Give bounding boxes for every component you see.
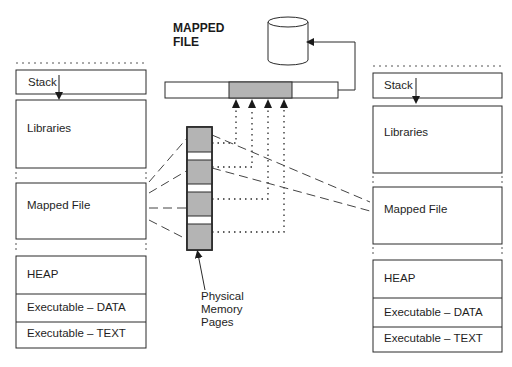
physical-memory-column bbox=[187, 127, 212, 250]
mapped-file-bar bbox=[165, 82, 338, 98]
left-exec-text-label: Executable – TEXT bbox=[27, 327, 126, 340]
right-mapping-dashed-links bbox=[212, 135, 370, 211]
physical-memory-line-2: Memory bbox=[201, 303, 244, 316]
physical-memory-line-1: Physical bbox=[201, 290, 244, 303]
right-mapped-file-label: Mapped File bbox=[384, 203, 447, 216]
right-heap-label: HEAP bbox=[384, 272, 415, 285]
right-stack-label: Stack bbox=[384, 79, 413, 92]
page-to-file-dotted-links bbox=[212, 108, 284, 232]
left-libraries-label: Libraries bbox=[27, 122, 71, 135]
physical-page-2 bbox=[187, 160, 212, 184]
physical-page-1 bbox=[187, 127, 212, 152]
physical-memory-label: Physical Memory Pages bbox=[201, 290, 244, 329]
physical-memory-pointer-arrow bbox=[198, 254, 205, 290]
physical-page-3 bbox=[187, 192, 212, 216]
left-stack-label: Stack bbox=[28, 76, 57, 89]
title-line-2: FILE bbox=[173, 35, 224, 49]
file-arrows bbox=[232, 99, 288, 108]
right-libraries-box bbox=[373, 106, 502, 173]
disk-cylinder-icon bbox=[268, 17, 308, 65]
left-exec-data-label: Executable – DATA bbox=[27, 301, 126, 314]
left-heap-label: HEAP bbox=[27, 268, 58, 281]
mapped-file-title: MAPPED FILE bbox=[173, 21, 224, 49]
left-mapping-dashed-links bbox=[149, 137, 188, 240]
physical-memory-line-3: Pages bbox=[201, 316, 244, 329]
right-exec-data-label: Executable – DATA bbox=[384, 306, 483, 319]
physical-page-4 bbox=[187, 224, 212, 250]
right-libraries-label: Libraries bbox=[384, 126, 428, 139]
title-line-1: MAPPED bbox=[173, 21, 224, 35]
left-mapped-file-label: Mapped File bbox=[27, 199, 90, 212]
mapped-region bbox=[229, 82, 292, 98]
right-exec-text-label: Executable – TEXT bbox=[384, 332, 483, 345]
